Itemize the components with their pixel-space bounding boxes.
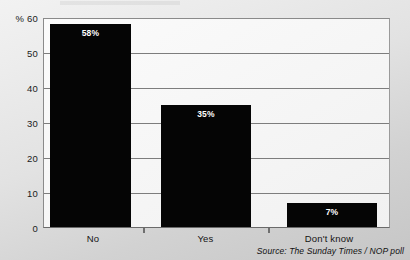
bar-value-label: 7%	[287, 207, 377, 217]
x-axis-category-label: Don't know	[268, 233, 390, 244]
bar-yes: 35%	[161, 105, 251, 228]
plot-area: 58% 35% 7%	[43, 18, 390, 228]
y-axis-tick-label: 10	[27, 189, 38, 199]
source-note: Source: The Sunday Times / NOP poll	[257, 246, 404, 256]
bar-value-label: 58%	[50, 28, 131, 38]
top-crop-artifact	[60, 1, 180, 5]
y-axis: % 60 50 40 30 20 10 0	[0, 0, 41, 260]
bar-value-label: 35%	[161, 109, 251, 119]
bar-dont-know: 7%	[287, 203, 377, 228]
x-axis-category-label: No	[43, 233, 143, 244]
y-axis-tick-label: 0	[33, 224, 38, 234]
x-axis-category-label: Yes	[143, 233, 268, 244]
y-axis-tick-label: 30	[27, 119, 38, 129]
y-axis-tick-label: 50	[27, 49, 38, 59]
y-axis-tick-label: 20	[27, 154, 38, 164]
y-axis-tick-label: % 60	[16, 14, 38, 24]
bar-no: 58%	[50, 24, 131, 227]
bar-chart-figure: % 60 50 40 30 20 10 0 58% 35% 7% No Yes …	[0, 0, 410, 260]
y-axis-tick-label: 40	[27, 84, 38, 94]
